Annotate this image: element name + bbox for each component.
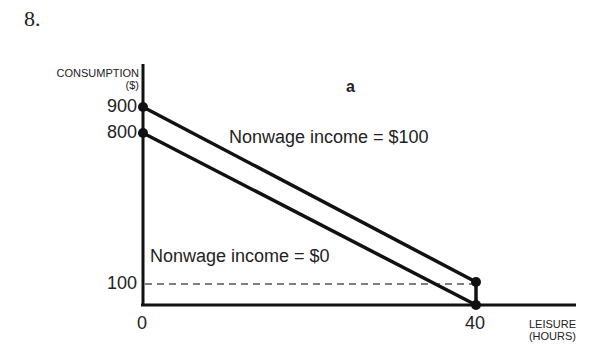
budget-constraint-chart (0, 0, 615, 362)
y-tick-100: 100 (107, 273, 137, 294)
y-tick-900: 900 (107, 96, 137, 117)
line-nonwage-0 (143, 133, 476, 305)
panel-label: a (346, 78, 355, 96)
y-tick-800: 800 (107, 122, 137, 143)
point-40-0 (471, 300, 481, 310)
x-axis-label: LEISURE (HOURS) (529, 318, 576, 342)
point-40-100 (471, 277, 481, 287)
y-axis-label: CONSUMPTION ($) (57, 67, 140, 91)
x-tick-0: 0 (137, 313, 147, 334)
point-800 (138, 128, 148, 138)
series-label-0: Nonwage income = $0 (150, 246, 330, 267)
series-label-100: Nonwage income = $100 (229, 127, 429, 148)
point-900 (138, 102, 148, 112)
x-tick-40: 40 (465, 313, 485, 334)
